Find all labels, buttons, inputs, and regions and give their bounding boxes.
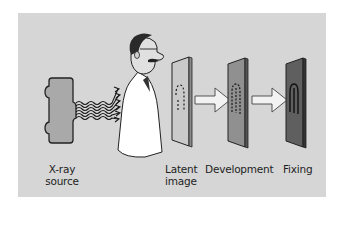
x-ray-beams-icon	[76, 87, 120, 122]
fixing-label: Fixing	[283, 163, 312, 175]
label-line: X-ray	[42, 163, 82, 175]
fixing-plate-icon	[286, 58, 306, 148]
person-in-lab-coat-icon	[118, 33, 164, 157]
latent-image-label: Latent image	[165, 163, 197, 187]
development-label: Development	[205, 163, 274, 175]
arrow-to-development-icon	[195, 88, 230, 112]
x-ray-source-icon	[45, 78, 76, 143]
label-line: Fixing	[283, 163, 312, 175]
label-line: source	[42, 175, 82, 187]
label-line: Latent	[165, 163, 197, 175]
arrow-to-fixing-icon	[252, 88, 287, 112]
label-line: Development	[205, 163, 274, 175]
development-plate-icon	[228, 58, 248, 148]
x-ray-source-label: X-ray source	[42, 163, 82, 187]
latent-image-plate-icon	[172, 57, 192, 147]
label-line: image	[165, 175, 197, 187]
